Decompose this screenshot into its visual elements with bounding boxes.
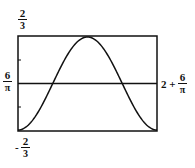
x-max-label: 6π — [178, 72, 187, 95]
y-max-label: 23 — [18, 8, 27, 31]
x-max-prefix: 2 + — [161, 78, 176, 90]
y-min-label: 23 — [21, 136, 30, 159]
x-min-label: 6π — [3, 70, 12, 93]
y-min-sign: - — [15, 141, 19, 153]
